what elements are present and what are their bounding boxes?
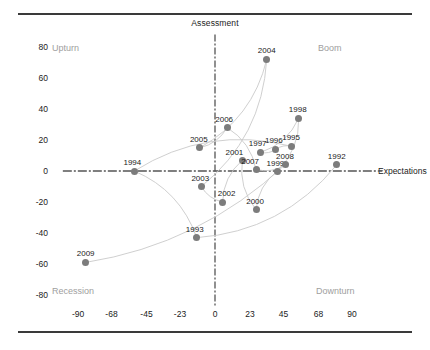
data-point-label: 2001 [225, 148, 243, 157]
y-tick-label: 20 [18, 135, 48, 145]
data-point-label: 1993 [186, 225, 204, 234]
data-point-marker [253, 206, 260, 213]
data-point-marker [295, 115, 302, 122]
trajectory-segment [197, 165, 337, 238]
trajectory-paths [0, 0, 430, 350]
data-point-marker [253, 166, 260, 173]
x-tick-label: 90 [332, 309, 372, 319]
x-tick-label: 45 [263, 309, 303, 319]
data-point-label: 2002 [218, 189, 236, 198]
data-point-label: 2008 [276, 152, 294, 161]
y-tick-label: -60 [18, 259, 48, 269]
data-point-label: 2004 [258, 46, 276, 55]
y-tick-label: 0 [18, 166, 48, 176]
trajectory-segment [200, 59, 267, 147]
data-point-label: 1998 [289, 105, 307, 114]
y-tick-label: -20 [18, 197, 48, 207]
data-point-marker [224, 124, 231, 131]
data-point-marker [282, 161, 289, 168]
data-point-label: 2007 [241, 157, 259, 166]
y-tick-label: -80 [18, 290, 48, 300]
data-point-label: 2005 [190, 135, 208, 144]
data-point-label: 1992 [328, 152, 346, 161]
data-point-label: 2003 [191, 174, 209, 183]
data-point-marker [257, 149, 264, 156]
data-point-label: 1994 [123, 158, 141, 167]
y-tick-label: -40 [18, 228, 48, 238]
x-tick-label: -23 [160, 309, 200, 319]
data-point-marker [131, 168, 138, 175]
data-point-label: 2006 [215, 115, 233, 124]
y-tick-label: 40 [18, 104, 48, 114]
data-point-marker [198, 183, 205, 190]
data-point-marker [274, 168, 281, 175]
data-point-label: 1995 [282, 133, 300, 142]
data-point-marker [219, 199, 226, 206]
data-point-marker [288, 143, 295, 150]
y-tick-label: 80 [18, 42, 48, 52]
y-tick-label: 60 [18, 73, 48, 83]
x-tick-label: -68 [92, 309, 132, 319]
chart-figure: Assessment Expectations Upturn Boom Rece… [0, 0, 430, 350]
data-point-label: 1997 [249, 139, 267, 148]
data-point-label: 1996 [265, 136, 283, 145]
data-point-label: 2009 [77, 249, 95, 258]
x-tick-label: 0 [195, 309, 235, 319]
data-point-label: 2000 [246, 197, 264, 206]
